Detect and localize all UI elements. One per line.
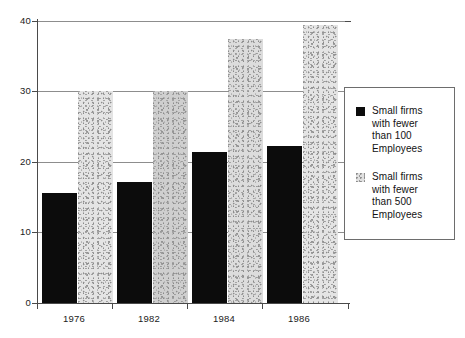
y-tick-10: [32, 232, 38, 233]
y-axis-label-10: 10: [4, 227, 31, 237]
bar-1982-fewer-than-500: [153, 91, 188, 303]
chart-legend: Small firms with fewer than 100 Employee…: [344, 87, 455, 240]
light-square-icon: [356, 173, 365, 182]
y-axis-label-20: 20: [4, 157, 31, 167]
bar-1984-fewer-than-100: [192, 152, 227, 303]
x-tick-end: [348, 303, 349, 309]
x-tick-2: [187, 303, 188, 309]
y-tick-40: [32, 21, 38, 22]
bar-1986-fewer-than-100: [267, 146, 302, 303]
legend-item-fewer-than-500: Small firms with fewer than 500 Employee…: [356, 171, 423, 221]
bar-1976-fewer-than-500: [78, 91, 113, 303]
x-axis-line: [36, 303, 350, 304]
dark-square-icon: [356, 107, 365, 116]
bar-1982-fewer-than-100: [117, 182, 152, 303]
y-axis-label-40: 40: [4, 16, 31, 26]
bar-chart: 40 30 20 10 0: [0, 0, 465, 338]
y-tick-right-40: [345, 21, 351, 22]
x-axis-label-1984: 1984: [196, 313, 252, 324]
x-axis-label-1982: 1982: [121, 313, 177, 324]
x-tick-start: [37, 303, 38, 309]
legend-label-fewer-than-100: Small firms with fewer than 100 Employee…: [372, 105, 423, 155]
plot-area: [37, 21, 348, 303]
bar-1984-fewer-than-500: [228, 39, 263, 303]
x-tick-3: [262, 303, 263, 309]
y-tick-30: [32, 91, 38, 92]
y-axis-label-30: 30: [4, 86, 31, 96]
gridline-40: [37, 21, 348, 22]
bar-1986-fewer-than-500: [303, 25, 338, 303]
legend-label-fewer-than-500: Small firms with fewer than 500 Employee…: [372, 171, 423, 221]
x-axis-label-1976: 1976: [46, 313, 102, 324]
x-tick-1: [112, 303, 113, 309]
y-axis-label-0: 0: [4, 298, 31, 308]
y-tick-20: [32, 162, 38, 163]
legend-item-fewer-than-100: Small firms with fewer than 100 Employee…: [356, 105, 423, 155]
bar-1976-fewer-than-100: [42, 193, 77, 303]
x-axis-label-1986: 1986: [271, 313, 327, 324]
